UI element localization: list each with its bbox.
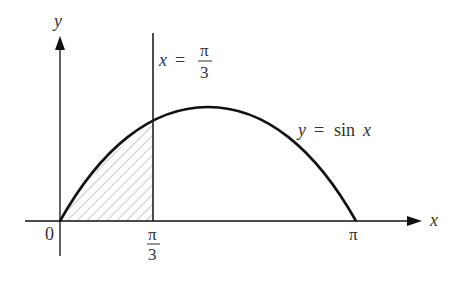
svg-text:=: = — [314, 120, 324, 140]
svg-text:sin: sin — [334, 120, 355, 140]
y-axis-label: y — [52, 11, 62, 31]
svg-text:x: x — [158, 50, 167, 70]
origin-label: 0 — [45, 224, 54, 244]
svg-text:π: π — [200, 41, 209, 60]
svg-text:3: 3 — [200, 63, 209, 82]
y-axis-arrow-icon — [55, 36, 65, 50]
svg-text:π: π — [148, 225, 157, 244]
tick-label-pi: π — [349, 225, 358, 244]
svg-text:3: 3 — [148, 245, 157, 264]
vertical-line-label: x = π 3 — [158, 41, 212, 82]
x-axis-arrow-icon — [407, 216, 422, 226]
y-axis — [55, 36, 65, 256]
svg-text:=: = — [175, 50, 185, 70]
curve-label: y = sin x — [296, 120, 371, 140]
svg-text:y: y — [296, 120, 306, 140]
x-axis-label: x — [429, 210, 438, 230]
sine-area-diagram: y x 0 π 3 π x = π 3 y = sin x — [0, 0, 463, 282]
tick-label-pi-over-3: π 3 — [147, 225, 160, 264]
shaded-region — [60, 122, 153, 221]
svg-text:x: x — [362, 120, 371, 140]
